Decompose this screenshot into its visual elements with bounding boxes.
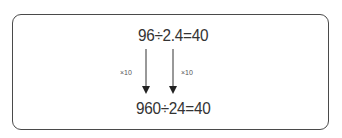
bottom-equation: 960÷24=40 xyxy=(136,99,210,119)
arrow-down-icon xyxy=(142,49,150,94)
multiplier-label-right: ×10 xyxy=(181,69,193,76)
multiplier-label-left: ×10 xyxy=(120,69,132,76)
arrow-down-icon xyxy=(169,49,177,94)
